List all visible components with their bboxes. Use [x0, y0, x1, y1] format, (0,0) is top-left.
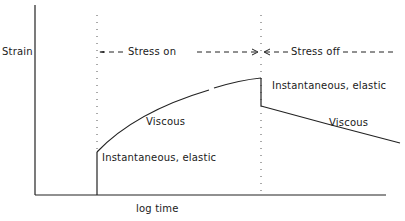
stress-off-label: Stress off	[291, 46, 340, 57]
x-axis-label: log time	[136, 203, 179, 214]
y-axis-label: Strain	[2, 46, 33, 57]
viscous-off-label: Viscous	[329, 117, 368, 128]
stress-on-label: Stress on	[128, 46, 176, 57]
stress-on-arrow	[99, 49, 258, 55]
creep-recovery-diagram	[0, 0, 405, 221]
viscous-on-label: Viscous	[146, 116, 185, 127]
elastic-on-label: Instantaneous, elastic	[102, 152, 216, 163]
strain-curve	[97, 78, 400, 195]
elastic-off-label: Instantaneous, elastic	[272, 80, 386, 91]
